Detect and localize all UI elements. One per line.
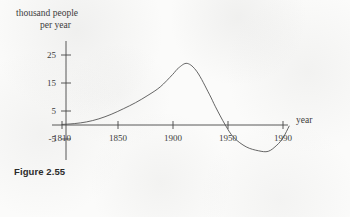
y-tick-label-5: 5 bbox=[52, 106, 57, 116]
y-tick-label-25: 25 bbox=[47, 50, 57, 60]
y-axis-label-line1: thousand people bbox=[16, 8, 78, 18]
x-tick-label-1810: 1810 bbox=[53, 133, 72, 143]
x-tick-label-1850: 1850 bbox=[109, 133, 128, 143]
x-axis-name: year bbox=[296, 115, 313, 125]
x-tick-label-1900: 1900 bbox=[164, 133, 183, 143]
immigration-rate-chart: thousand people per year 25 15 5 -5 1810… bbox=[0, 0, 350, 217]
y-tick-label-15: 15 bbox=[47, 78, 57, 88]
figure-2-55: thousand people per year 25 15 5 -5 1810… bbox=[0, 0, 350, 217]
figure-caption: Figure 2.55 bbox=[14, 166, 65, 177]
y-axis-label-line2: per year bbox=[40, 20, 72, 30]
